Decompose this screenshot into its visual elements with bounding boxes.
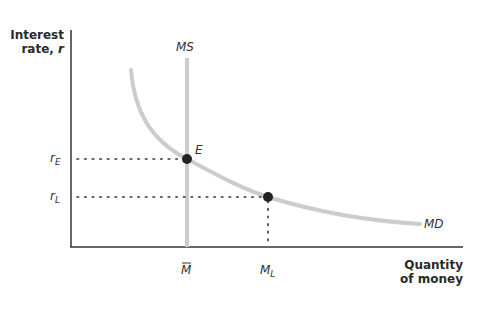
m-l-sub: L (270, 269, 275, 279)
r-e-sub: E (55, 157, 61, 167)
r-e-label: rE (50, 151, 61, 169)
md-label: MD (424, 217, 444, 231)
money-demand-curve (131, 70, 420, 224)
r-l-sub: L (55, 195, 60, 205)
y-axis-label-line1: Interest (4, 28, 64, 42)
m-l-base: M (260, 263, 270, 277)
m-bar-label: M (181, 263, 191, 277)
e-label: E (195, 143, 203, 157)
y-axis-label-line2: rate, (21, 42, 53, 56)
equilibrium-point-e (182, 154, 192, 164)
x-axis-label-line2: of money (383, 272, 463, 286)
x-axis-label-line1: Quantity (383, 258, 463, 272)
y-axis-label-var: r (58, 42, 64, 56)
r-l-label: rL (50, 189, 60, 207)
y-axis-label: Interest rate, r (4, 28, 64, 56)
m-l-label: ML (260, 263, 275, 281)
ms-label: MS (176, 40, 194, 54)
x-axis-label: Quantity of money (383, 258, 463, 286)
point-l (263, 192, 273, 202)
